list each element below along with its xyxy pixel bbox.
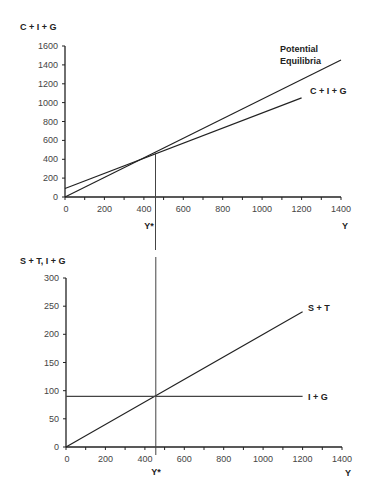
svg-text:0: 0 xyxy=(54,442,59,452)
bottom-x-axis-title: Y xyxy=(345,468,351,478)
top-x-tick-labels: 0 200 400 600 800 1000 1200 1400 xyxy=(63,204,351,214)
st-label: S + T xyxy=(308,303,330,313)
bottom-y-axis-title: S + T, I + G xyxy=(20,256,66,266)
svg-text:400: 400 xyxy=(137,454,152,464)
svg-text:1400: 1400 xyxy=(332,454,352,464)
svg-text:600: 600 xyxy=(176,204,191,214)
potential-equilibria-label-1: Potential xyxy=(280,44,318,54)
top-chart: C + I + G 0 200 400 600 800 1000 1200 14… xyxy=(20,22,351,250)
potential-equilibria-line xyxy=(65,60,341,197)
keynesian-cross-figure: C + I + G 0 200 400 600 800 1000 1200 14… xyxy=(0,0,372,495)
svg-text:1400: 1400 xyxy=(38,60,58,70)
top-y-axis-title: C + I + G xyxy=(20,22,57,32)
svg-text:800: 800 xyxy=(43,117,58,127)
svg-text:1200: 1200 xyxy=(292,204,312,214)
top-ystar-label: Y* xyxy=(144,221,154,231)
svg-text:800: 800 xyxy=(216,454,231,464)
svg-text:0: 0 xyxy=(64,454,69,464)
top-x-axis-title: Y xyxy=(342,221,348,231)
svg-text:200: 200 xyxy=(44,329,59,339)
cig-line xyxy=(65,98,302,189)
svg-text:600: 600 xyxy=(43,135,58,145)
svg-text:200: 200 xyxy=(97,204,112,214)
svg-text:1000: 1000 xyxy=(38,98,58,108)
svg-text:0: 0 xyxy=(63,204,68,214)
svg-text:150: 150 xyxy=(44,358,59,368)
svg-text:400: 400 xyxy=(43,154,58,164)
svg-text:1000: 1000 xyxy=(252,204,272,214)
potential-equilibria-label-2: Equilibria xyxy=(280,56,322,66)
svg-text:250: 250 xyxy=(44,301,59,311)
svg-text:100: 100 xyxy=(44,386,59,396)
svg-text:50: 50 xyxy=(49,414,59,424)
svg-text:1400: 1400 xyxy=(331,204,351,214)
svg-text:800: 800 xyxy=(215,204,230,214)
svg-text:600: 600 xyxy=(177,454,192,464)
svg-text:1600: 1600 xyxy=(38,41,58,51)
svg-text:0: 0 xyxy=(53,192,58,202)
svg-text:400: 400 xyxy=(136,204,151,214)
svg-text:200: 200 xyxy=(98,454,113,464)
bottom-x-tick-labels: 0 200 400 600 800 1000 1200 1400 xyxy=(64,454,352,464)
bottom-chart: S + T, I + G 0 50 100 150 200 250 300 xyxy=(20,256,352,478)
svg-text:1200: 1200 xyxy=(293,454,313,464)
bottom-y-tick-labels: 0 50 100 150 200 250 300 xyxy=(44,273,59,452)
svg-text:200: 200 xyxy=(43,173,58,183)
svg-text:1000: 1000 xyxy=(253,454,273,464)
cig-label: C + I + G xyxy=(310,86,347,96)
bottom-ystar-label: Y* xyxy=(151,467,161,477)
ig-label: I + G xyxy=(308,392,328,402)
top-y-tick-labels: 0 200 400 600 800 1000 1200 1400 1600 xyxy=(38,41,58,202)
svg-text:300: 300 xyxy=(44,273,59,283)
st-line xyxy=(66,312,303,447)
svg-text:1200: 1200 xyxy=(38,79,58,89)
